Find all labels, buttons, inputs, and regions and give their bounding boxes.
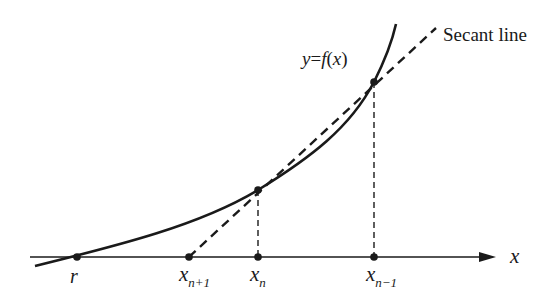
curve-label-x: x xyxy=(333,48,341,69)
root-label: r xyxy=(70,265,78,288)
xn-1-label: xn−1 xyxy=(366,262,397,287)
secant-line-label: Secant line xyxy=(443,24,527,46)
xn-label-sub: n xyxy=(259,275,266,290)
curve-point-xn-1 xyxy=(370,78,378,86)
xn-point xyxy=(254,253,262,261)
xn-label: xn xyxy=(250,262,266,287)
xn1-label-sub: n+1 xyxy=(188,275,210,290)
curve-point-xn xyxy=(254,186,262,194)
xn-1-label-sub: n−1 xyxy=(375,275,397,290)
root-point xyxy=(73,253,81,261)
xn-label-base: x xyxy=(250,262,259,286)
xn-1-label-base: x xyxy=(366,262,375,286)
x-axis-label: x xyxy=(510,244,519,269)
xn1-label: xn+1 xyxy=(179,262,210,287)
xn1-point xyxy=(185,253,193,261)
curve-label-eq: = xyxy=(310,48,321,69)
x-axis-arrow-icon xyxy=(479,252,496,262)
secant-method-diagram: y=f(x) Secant line x r xn+1 xn xn−1 xyxy=(0,0,555,298)
root-label-base: r xyxy=(70,265,78,287)
xn-1-point xyxy=(370,253,378,261)
curve-label: y=f(x) xyxy=(302,48,348,70)
xn1-label-base: x xyxy=(179,262,188,286)
curve-label-close: ) xyxy=(341,48,347,69)
